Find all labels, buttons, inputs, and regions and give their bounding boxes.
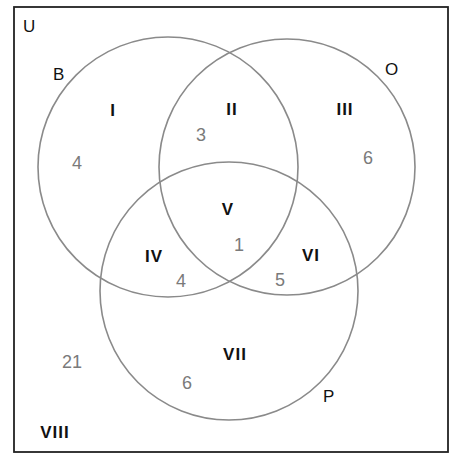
set-o-label: O [385, 61, 398, 78]
region-i-count: 4 [72, 154, 82, 172]
region-vi-label: VI [302, 247, 320, 264]
region-viii-count: 21 [62, 353, 82, 371]
region-vi-count: 5 [275, 271, 285, 289]
region-v-label: V [222, 201, 234, 218]
region-iv-label: IV [145, 248, 163, 265]
region-iv-count: 4 [176, 272, 186, 290]
region-v-count: 1 [234, 236, 244, 254]
region-vii-label: VII [223, 346, 247, 363]
region-ii-count: 3 [196, 126, 206, 144]
set-b-label: B [53, 66, 64, 83]
region-viii-label: VIII [40, 424, 70, 441]
set-p-label: P [323, 388, 334, 405]
region-iii-count: 6 [363, 149, 373, 167]
universe-label: U [23, 18, 35, 35]
region-ii-label: II [226, 101, 237, 118]
set-o-circle [159, 39, 415, 295]
region-i-label: I [110, 102, 116, 119]
region-iii-label: III [336, 101, 353, 118]
region-vii-count: 6 [182, 374, 192, 392]
universe-frame [14, 7, 448, 452]
